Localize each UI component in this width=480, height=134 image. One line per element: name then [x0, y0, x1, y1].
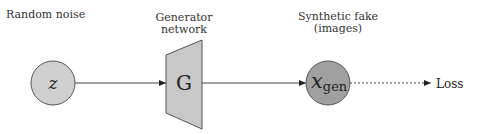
xgen-subscript: gen: [323, 79, 348, 94]
generator-symbol: G: [176, 71, 192, 95]
loss-label: Loss: [436, 77, 464, 91]
noise-label-text: Random noise: [6, 9, 106, 21]
xgen-x: x: [311, 69, 323, 93]
synthetic-label-line2: (images): [278, 23, 398, 35]
z-symbol: z: [48, 73, 59, 93]
generator-label-line2: network: [134, 24, 234, 36]
noise-label: Random noise: [6, 9, 106, 21]
generator-label: Generator network: [134, 12, 234, 36]
synthetic-label: Synthetic fake (images): [278, 11, 398, 35]
